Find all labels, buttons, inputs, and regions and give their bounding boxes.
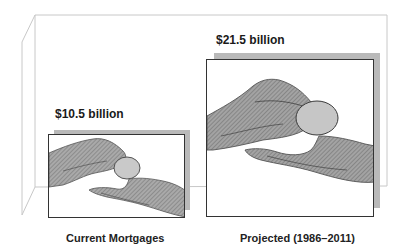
bar1-category-label: Current Mortgages [66,232,164,244]
hand-coin-icon [207,60,374,217]
bar2-value-label: $21.5 billion [216,33,285,47]
bar1-pictograph [48,134,185,218]
bar2-category-label: Projected (1986–2011) [240,232,355,244]
bar2-pictograph [206,59,374,217]
chart-canvas: $10.5 billion Current Mortgages $21.5 bi… [0,0,403,245]
bar1-value-label: $10.5 billion [55,107,124,121]
hand-coin-icon [49,135,185,218]
